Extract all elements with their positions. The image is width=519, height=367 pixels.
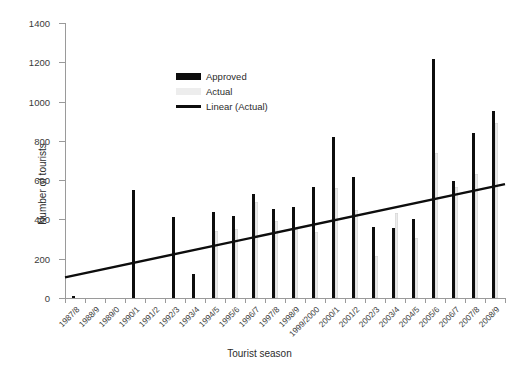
legend-label-actual: Actual (206, 86, 232, 97)
x-tick (425, 298, 426, 303)
x-axis-title: Tourist season (0, 348, 519, 359)
legend-label-linear: Linear (Actual) (206, 101, 268, 112)
x-tick (85, 298, 86, 303)
y-tick-label: 1400 (29, 18, 50, 29)
legend-item-actual: Actual (176, 84, 268, 99)
legend-item-approved: Approved (176, 69, 268, 84)
x-tick (105, 298, 106, 303)
black-line-swatch-icon (176, 105, 201, 108)
x-tick (245, 298, 246, 303)
x-tick (225, 298, 226, 303)
x-tick (125, 298, 126, 303)
x-tick (465, 298, 466, 303)
x-tick (205, 298, 206, 303)
y-tick-label: 600 (34, 175, 50, 186)
y-tick-label: 1000 (29, 96, 50, 107)
black-bar-swatch-icon (176, 73, 201, 80)
x-tick (325, 298, 326, 303)
y-tick-label: 0 (45, 293, 50, 304)
trend-line (65, 23, 505, 298)
x-tick (185, 298, 186, 303)
x-tick (445, 298, 446, 303)
chart-figure: Number of tourists 020040060080010001200… (0, 0, 519, 367)
plot-area: 0200400600800100012001400 (65, 23, 505, 298)
chart-legend: Approved Actual Linear (Actual) (176, 69, 268, 114)
light-gray-bar-swatch-icon (176, 88, 201, 95)
x-tick (385, 298, 386, 303)
x-tick (285, 298, 286, 303)
x-tick (345, 298, 346, 303)
x-tick (405, 298, 406, 303)
y-tick-label: 200 (34, 253, 50, 264)
legend-label-approved: Approved (206, 71, 247, 82)
x-tick (505, 298, 506, 303)
y-tick-label: 1200 (29, 57, 50, 68)
legend-item-linear: Linear (Actual) (176, 99, 268, 114)
y-tick-label: 400 (34, 214, 50, 225)
x-tick (265, 298, 266, 303)
x-tick (305, 298, 306, 303)
x-tick (65, 298, 66, 303)
y-tick-label: 800 (34, 135, 50, 146)
x-tick (145, 298, 146, 303)
x-tick (165, 298, 166, 303)
x-tick (365, 298, 366, 303)
x-tick (485, 298, 486, 303)
